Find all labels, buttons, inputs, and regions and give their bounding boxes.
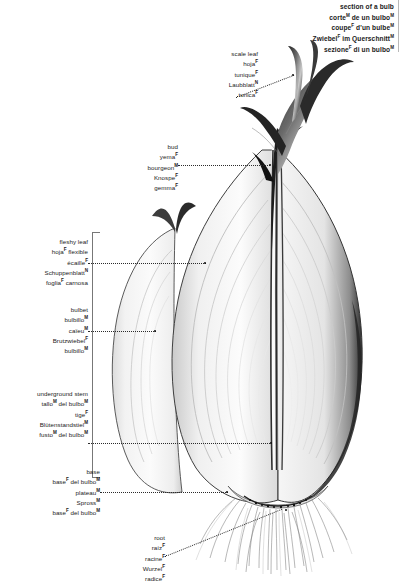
title-rule [398,0,399,52]
label-root: root raízF racineF WurzelF radiceF [143,534,165,584]
label-line-en: underground stem [37,390,88,398]
label-line-de: BlütenstandstielM [37,419,88,429]
leader-bud [178,165,270,166]
page-title: section of a bulb corteM de un bulboM co… [313,3,394,55]
title-line-de: ZwiebelF im QuerschnittM [313,33,394,44]
label-line-de: LaubblattN [229,79,258,89]
label-line-it: tunicaF [229,89,258,99]
label-line-en: bud [148,143,178,151]
label-line-es: hojaF flexible [44,246,88,256]
label-line-en: root [143,534,165,542]
label-line-it: baseF del bulboM [52,507,100,517]
root-shape [200,498,347,574]
label-line-it: fogliaF carnosa [44,277,88,287]
title-line-it: sezioneF di un bulboM [313,44,394,55]
leader-underground-stem [88,443,272,444]
title-line-en: section of a bulb [313,3,394,12]
label-line-fr: plateauM [52,487,100,497]
label-bracket [92,232,93,478]
fleshy-leaf-shape-right [276,150,362,502]
title-line-fr: coupeF d'un bulbeM [313,22,394,33]
label-line-de: WurzelF [143,563,165,573]
label-line-en: scale leaf [229,50,258,58]
label-fleshy-leaf: fleshy leaf hojaF flexible écailleF Schu… [44,238,88,288]
label-line-fr: racineF [143,553,165,563]
label-line-fr: tuniqueF [229,69,258,79]
label-bud: bud yemaF bourgeonM KnospeF gemmaF [148,143,178,193]
encyclopedia-plate: section of a bulb corteM de un bulboM co… [0,0,400,584]
label-line-fr: tigeF [37,409,88,419]
label-line-es: talloM del bulboM [37,398,88,408]
label-bulbet: bulbet bulbilloM caïeuM BrutzwiebelF bul… [53,306,88,356]
label-line-es: bulbilloM [53,314,88,324]
label-line-en: base [52,468,100,476]
label-line-it: radiceF [143,573,165,583]
label-line-fr: caïeuM [53,325,88,335]
leader-bulbet [88,331,156,332]
label-line-it: bulbilloM [53,345,88,355]
label-line-it: gemmaF [148,182,178,192]
label-line-it: fustoM del bulboM [37,429,88,439]
label-line-de: SchuppenblattN [44,267,88,277]
title-line-es: corteM de un bulboM [313,12,394,23]
label-line-fr: écailleF [44,257,88,267]
label-line-es: hojaF [229,58,258,68]
label-line-es: yemaF [148,151,178,161]
label-line-de: SprossM [52,497,100,507]
label-line-fr: bourgeonM [148,162,178,172]
label-line-en: bulbet [53,306,88,314]
label-line-de: KnospeF [148,172,178,182]
label-line-es: baseF del bulboM [52,476,100,486]
leader-fleshy-leaf [88,263,206,264]
leader-base [100,492,228,493]
label-base: base baseF del bulboM plateauM SprossM b… [52,468,100,518]
label-scale-leaf: scale leaf hojaF tuniqueF LaubblattN tun… [229,50,258,100]
label-line-en: fleshy leaf [44,238,88,246]
label-line-es: raízF [143,542,165,552]
label-underground-stem: underground stem talloM del bulboM tigeF… [37,390,88,440]
label-line-de: BrutzwiebelF [53,335,88,345]
